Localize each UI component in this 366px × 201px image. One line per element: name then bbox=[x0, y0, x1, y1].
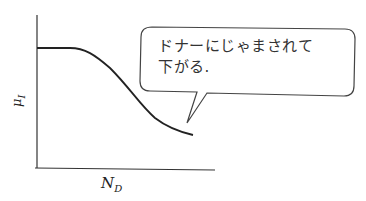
x-label-main: N bbox=[101, 174, 114, 192]
callout-line-1: ドナーにじゃまされて bbox=[158, 36, 348, 57]
diagram-canvas bbox=[0, 0, 366, 201]
x-label-sub: D bbox=[114, 183, 122, 194]
callout-text: ドナーにじゃまされて 下がる. bbox=[158, 36, 348, 78]
x-axis bbox=[35, 168, 215, 170]
x-axis-label: ND bbox=[101, 174, 122, 194]
y-label-sub: I bbox=[16, 95, 27, 99]
y-label-main: μ bbox=[9, 99, 24, 107]
callout-line-2: 下がる. bbox=[158, 57, 348, 78]
y-axis-label: μI bbox=[9, 95, 27, 107]
